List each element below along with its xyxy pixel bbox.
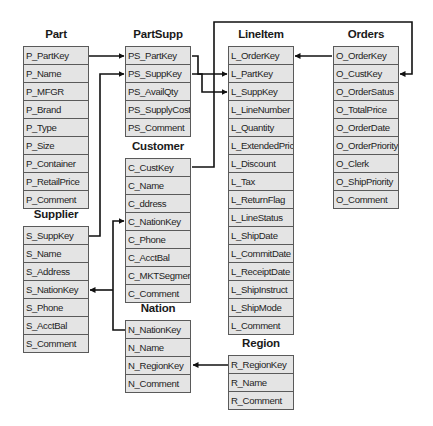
table-title: Nation [125,302,191,314]
column-o-shippriority: O_ShipPriority [334,173,398,191]
column-p-retailprice: P_RetailPrice [24,173,88,191]
column-s-comment: S_Comment [24,335,88,352]
column-l-shipdate: L_ShipDate [229,227,293,245]
column-o-totalprice: O_TotalPrice [334,101,398,119]
column-o-orderstatus: O_OrderSatus [334,83,398,101]
column-l-shipinstruct: L_ShipInstruct [229,281,293,299]
connector-partsupp-lineitem-suppkey [192,74,227,92]
column-c-address: C_ddress [126,195,190,213]
column-l-shipmode: L_ShipMode [229,299,293,317]
column-ps-supplycost: PS_SupplyCost [126,101,190,119]
column-r-name: R_Name [229,374,293,392]
column-n-regionkey: N_RegionKey [126,357,190,375]
column-o-orderpriority: O_OrderPriority [334,137,398,155]
column-p-comment: P_Comment [24,191,88,208]
column-o-orderkey: O_OrderKey [334,47,398,65]
column-p-mfgr: P_MFGR [24,83,88,101]
table-title: Region [228,337,294,349]
connector-supplier-partsupp [89,74,124,236]
column-c-mktsegment: C_MKTSegment [126,267,190,285]
column-s-name: S_Name [24,245,88,263]
column-o-clerk: O_Clerk [334,155,398,173]
column-o-comment: O_Comment [334,191,398,208]
column-r-regionkey: R_RegionKey [229,356,293,374]
connector-partsupp-lineitem-partkey [192,56,227,74]
column-l-returnflag: L_ReturnFlag [229,191,293,209]
table-title: Customer [125,140,191,152]
column-l-linenumber: L_LineNumber [229,101,293,119]
column-c-nationkey: C_NationKey [126,213,190,231]
column-s-nationkey: S_NationKey [24,281,88,299]
table-title: Orders [333,28,399,40]
column-p-brand: P_Brand [24,101,88,119]
column-ps-comment: PS_Comment [126,119,190,136]
column-l-orderkey: L_OrderKey [229,47,293,65]
column-n-name: N_Name [126,339,190,357]
column-c-comment: C_Comment [126,285,190,302]
table-title: Part [23,28,89,40]
column-p-partkey: P_PartKey [24,47,88,65]
column-c-phone: C_Phone [126,231,190,249]
column-l-receiptdate: L_ReceiptDate [229,263,293,281]
column-o-custkey: O_CustKey [334,65,398,83]
column-l-commitdate: L_CommitDate [229,245,293,263]
column-s-suppkey: S_SuppKey [24,227,88,245]
table-title: PartSupp [125,28,191,40]
column-p-type: P_Type [24,119,88,137]
column-o-orderdate: O_OrderDate [334,119,398,137]
column-n-comment: N_Comment [126,375,190,392]
table-title: Supplier [23,208,89,220]
column-l-comment: L_Comment [229,317,293,334]
column-c-acctbal: C_AcctBal [126,249,190,267]
column-c-name: C_Name [126,177,190,195]
column-l-partkey: L_PartKey [229,65,293,83]
column-l-linestatus: L_LineStatus [229,209,293,227]
connector-nation-customer [113,221,125,330]
column-ps-partkey: PS_PartKey [126,47,190,65]
column-r-comment: R_Comment [229,392,293,409]
column-s-acctbal: S_AcctBal [24,317,88,335]
column-ps-suppkey: PS_SuppKey [126,65,190,83]
column-p-name: P_Name [24,65,88,83]
column-p-size: P_Size [24,137,88,155]
column-n-nationkey: N_NationKey [126,321,190,339]
table-title: LineItem [228,28,294,40]
column-s-phone: S_Phone [24,299,88,317]
column-s-address: S_Address [24,263,88,281]
column-l-quantity: L_Quantity [229,119,293,137]
column-ps-availqty: PS_AvailQty [126,83,190,101]
column-p-container: P_Container [24,155,88,173]
column-c-custkey: C_CustKey [126,159,190,177]
column-l-discount: L_Discount [229,155,293,173]
column-l-tax: L_Tax [229,173,293,191]
column-l-extendedprice: L_ExtendedPrice [229,137,293,155]
column-l-suppkey: L_SuppKey [229,83,293,101]
